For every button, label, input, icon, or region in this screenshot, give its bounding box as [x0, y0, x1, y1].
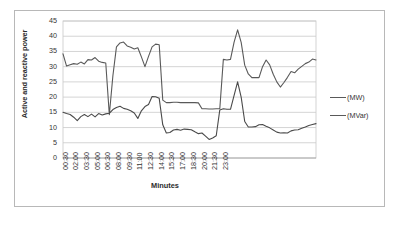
- x-tick-label: 14:00: [158, 152, 166, 170]
- plot-background: [63, 21, 316, 158]
- legend-item-mw: (MW): [330, 88, 396, 106]
- x-tick-label: 08:00: [115, 152, 123, 170]
- legend-line-swatch-mvar: [330, 115, 346, 116]
- x-tick-label: 12:30: [147, 152, 155, 170]
- x-tick-label: 02:00: [72, 152, 80, 170]
- x-tick-label: 17:00: [179, 152, 187, 170]
- legend-line-swatch-mw: [330, 97, 346, 98]
- x-tick-label: 05:00: [94, 152, 102, 170]
- x-tick-label: 15:30: [168, 152, 176, 170]
- x-tick-label: 21:30: [211, 152, 219, 170]
- chart-figure-frame: Active and reactive power 05101520253035…: [14, 10, 385, 207]
- x-tick-label: 20:00: [201, 152, 209, 170]
- x-tick-label: 00:30: [62, 152, 70, 170]
- x-tick-label: 18:30: [190, 152, 198, 170]
- x-tick-label: 09:30: [126, 152, 134, 170]
- x-tick-label: 11:00: [136, 153, 144, 170]
- legend-label-mvar: (MVar): [347, 111, 368, 120]
- x-tick-label: 06:30: [104, 152, 112, 170]
- x-tick-label: 23:00: [222, 152, 230, 170]
- chart-root: Active and reactive power 05101520253035…: [15, 11, 384, 206]
- legend-label-mw: (MW): [347, 93, 365, 102]
- legend-item-mvar: (MVar): [330, 106, 396, 124]
- chart-legend: (MW) (MVar): [330, 88, 396, 124]
- x-tick-label: 03:30: [83, 152, 91, 170]
- x-axis-title: Minutes: [15, 181, 315, 190]
